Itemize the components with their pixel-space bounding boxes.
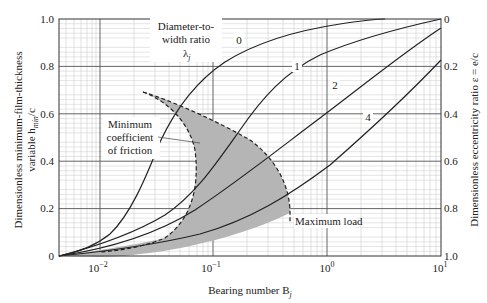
svg-text:0: 0 [444, 13, 450, 25]
svg-text:0.2: 0.2 [444, 60, 458, 72]
x-axis-ticks: 10−2 10−1 100 101 [88, 260, 447, 274]
svg-text:0.6: 0.6 [444, 155, 458, 167]
min-friction-label-1: Minimum [108, 118, 152, 130]
svg-text:0.4: 0.4 [40, 155, 54, 167]
svg-text:1.0: 1.0 [40, 13, 54, 25]
svg-text:0: 0 [49, 250, 55, 262]
svg-text:10−2: 10−2 [88, 260, 108, 274]
svg-text:101: 101 [433, 260, 448, 274]
svg-text:0.8: 0.8 [444, 202, 458, 214]
svg-text:0.2: 0.2 [40, 202, 54, 214]
min-friction-label-2: coefficient [107, 131, 154, 143]
svg-text:10−1: 10−1 [201, 260, 221, 274]
chart: Diameter-to- width ratio λj 0 1 2 4 Mini… [0, 0, 487, 303]
legend-title-line2: width ratio [162, 33, 210, 45]
curve-label-4: 4 [365, 111, 371, 123]
svg-text:0.4: 0.4 [444, 108, 458, 120]
min-friction-label-3: of friction [108, 144, 153, 156]
y-axis-left-title-1: Dimensionless minimum-film-thickness [12, 52, 24, 229]
legend-title-line1: Diameter-to- [158, 20, 215, 32]
x-axis-title: Bearing number Bj [208, 284, 292, 299]
curve-label-0: 0 [236, 34, 242, 46]
y-axis-left-ticks: 0 0.2 0.4 0.6 0.8 1.0 [40, 13, 54, 262]
curve-label-2: 2 [332, 79, 338, 91]
svg-text:0.6: 0.6 [40, 108, 54, 120]
svg-text:100: 100 [320, 260, 335, 274]
y-axis-right-title: Dimensionless eccentricity ratio ε = e/c [468, 53, 480, 227]
y-axis-left-title-2: variable hmin/c [25, 108, 40, 172]
curve-label-1: 1 [294, 60, 300, 72]
y-axis-right-ticks: 1.0 0.8 0.6 0.4 0.2 0 [444, 13, 458, 262]
svg-text:0.8: 0.8 [40, 60, 54, 72]
max-load-label: Maximum load [295, 215, 363, 227]
